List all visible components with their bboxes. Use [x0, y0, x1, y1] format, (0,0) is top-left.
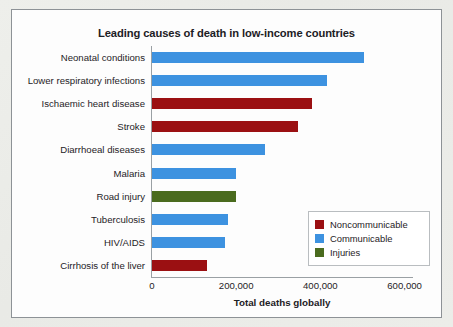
legend-label: Noncommunicable: [330, 219, 408, 230]
bar-row: [152, 92, 413, 115]
legend-item: Communicable: [315, 232, 422, 245]
bar: [152, 75, 327, 86]
y-axis-label: Tuberculosis: [91, 208, 145, 231]
legend-item: Injuries: [315, 246, 422, 259]
chart-title: Leading causes of death in low-income co…: [12, 27, 441, 39]
bar: [152, 52, 364, 63]
y-axis-label: Cirrhosis of the liver: [60, 254, 145, 277]
bar-row: [152, 138, 413, 161]
legend-item: Noncommunicable: [315, 218, 422, 231]
y-axis-label: Lower respiratory infections: [28, 69, 145, 92]
x-axis-tick: 0: [149, 280, 154, 291]
y-axis-label: Ischaemic heart disease: [42, 92, 145, 115]
bar: [152, 191, 236, 202]
y-axis-category-labels: Neonatal conditionsLower respiratory inf…: [20, 46, 149, 277]
bar: [152, 237, 225, 248]
y-axis-label: Diarrhoeal diseases: [60, 138, 145, 161]
y-axis-label: Malaria: [114, 162, 145, 185]
x-axis-tick: 200,000: [219, 280, 254, 291]
y-axis-label: Stroke: [117, 115, 145, 138]
legend-swatch-icon: [315, 220, 324, 229]
bar-row: [152, 69, 413, 92]
bar-row: [152, 162, 413, 185]
x-axis-title: Total deaths globally: [151, 297, 413, 308]
legend-swatch-icon: [315, 248, 324, 257]
bar: [152, 168, 236, 179]
bar-row: [152, 185, 413, 208]
bar: [152, 214, 228, 225]
x-axis-tick: 400,000: [303, 280, 338, 291]
legend-label: Injuries: [330, 247, 360, 258]
legend-swatch-icon: [315, 234, 324, 243]
x-axis-tick: 600,000: [387, 280, 422, 291]
bar: [152, 98, 312, 109]
chart-legend: NoncommunicableCommunicableInjuries: [308, 211, 430, 266]
chart-figure: Leading causes of death in low-income co…: [11, 9, 442, 318]
bar-row: [152, 46, 413, 69]
bar: [152, 121, 298, 132]
bar: [152, 144, 265, 155]
bar-row: [152, 115, 413, 138]
y-axis-label: Neonatal conditions: [61, 46, 145, 69]
x-axis-line: [151, 277, 413, 278]
legend-label: Communicable: [330, 233, 393, 244]
bar: [152, 260, 207, 271]
x-axis-tick-labels: 0200,000400,000600,000: [151, 280, 413, 294]
y-axis-label: HIV/AIDS: [104, 231, 145, 254]
y-axis-label: Road injury: [96, 185, 145, 208]
